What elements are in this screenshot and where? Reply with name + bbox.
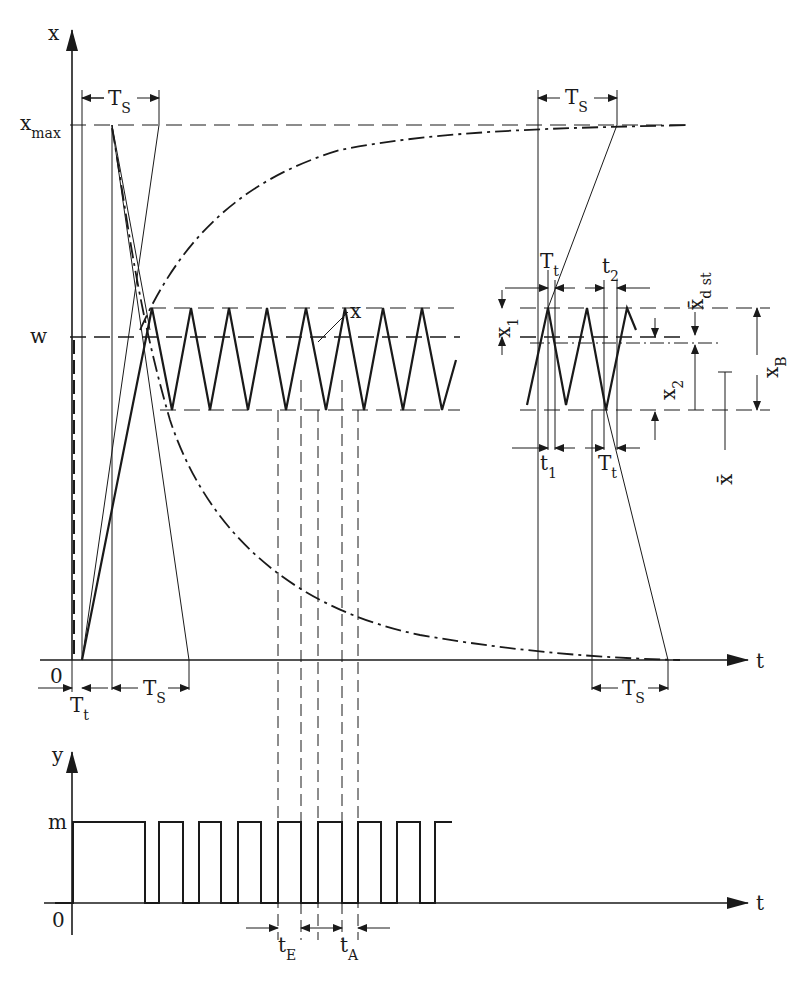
- x-waveform-right: [527, 308, 636, 410]
- w-label: w: [30, 324, 47, 348]
- lower-plot: y t 0 m tE tA: [44, 743, 764, 963]
- y-pulse-waveform: [55, 822, 452, 903]
- Ts-label-bottom-left: TS: [143, 676, 166, 706]
- x-curve-label: x: [350, 299, 362, 323]
- xB-label: xB: [759, 356, 789, 378]
- tA-label: tA: [340, 933, 359, 963]
- t1-label: t1: [540, 451, 557, 481]
- t2-label: t2: [602, 254, 619, 284]
- x1-label: x1: [491, 318, 521, 338]
- origin-label-upper: 0: [50, 664, 63, 688]
- t-axis-label-upper: t: [756, 649, 764, 673]
- Ts-label-top-left: TS: [108, 86, 131, 116]
- xmax-label: xmax: [20, 111, 61, 141]
- controller-diagram: x t 0 xmax w TS: [0, 0, 794, 990]
- Tt-label-right: Tt: [540, 249, 559, 279]
- t-axis-label-lower: t: [756, 891, 764, 915]
- y-axis-label: y: [51, 743, 64, 767]
- Ts-label-bottom-right: TS: [622, 676, 645, 706]
- Ts-label-top-right: TS: [565, 85, 588, 115]
- x-waveform-left: [82, 308, 456, 660]
- tangent-rise: [82, 125, 159, 660]
- Tt-label-bottom: Tt: [70, 693, 89, 723]
- tangent-right-rise: [548, 125, 617, 308]
- x-axis-label: x: [48, 21, 60, 45]
- exp-decay-curve: [112, 128, 680, 660]
- origin-label-lower: 0: [52, 908, 65, 932]
- m-label: m: [48, 810, 67, 834]
- Tt-label-right-lower: Tt: [598, 451, 617, 481]
- tangent-fall: [112, 125, 189, 660]
- upper-plot: x t 0 xmax w TS: [20, 21, 789, 940]
- xbar-label: x̄: [713, 473, 737, 485]
- x2-label: x2: [656, 380, 686, 400]
- diagram-canvas: x t 0 xmax w TS: [0, 0, 794, 990]
- exp-rise-curve: [140, 125, 690, 330]
- xdst-label: x̄d st: [684, 272, 714, 310]
- tE-label: tE: [278, 933, 296, 963]
